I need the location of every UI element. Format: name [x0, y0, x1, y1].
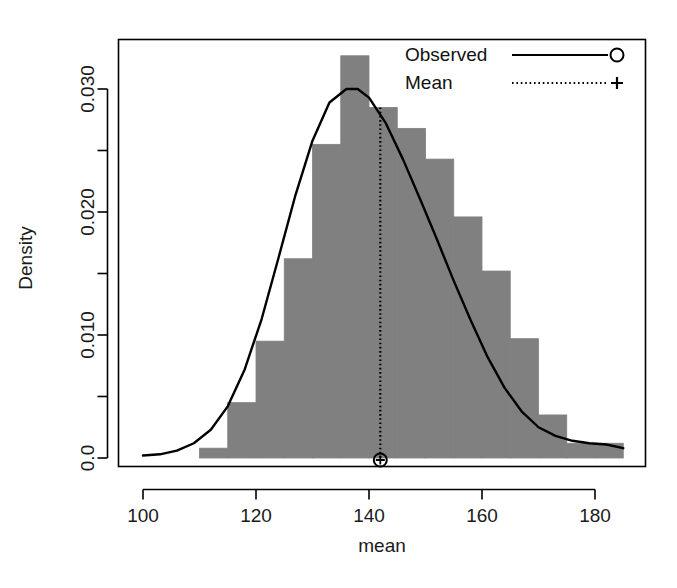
density-histogram-figure: 100120140160180 0.00.0100.0200.030 mean … [0, 0, 677, 588]
x-axis-tick-label: 180 [579, 505, 611, 526]
histogram-bar [567, 443, 595, 458]
histogram-bar [482, 271, 510, 458]
histogram-bar [369, 107, 397, 458]
y-axis-tick-label: 0.0 [77, 445, 98, 471]
x-axis-title: mean [358, 535, 406, 556]
histogram-bar [341, 56, 369, 458]
y-axis-tick-label: 0.010 [77, 311, 98, 359]
plot-canvas: 100120140160180 0.00.0100.0200.030 mean … [0, 0, 677, 588]
y-axis-tick-label: 0.030 [77, 65, 98, 113]
histogram-bar [200, 448, 228, 458]
histogram-bar [256, 341, 284, 458]
histogram-bar [539, 415, 567, 458]
histogram-bar [313, 144, 341, 458]
histogram-bar [228, 403, 256, 458]
histogram-bar [510, 339, 538, 458]
legend-label-mean: Mean [405, 72, 453, 93]
x-axis-tick-label: 140 [353, 505, 385, 526]
histogram-bar [284, 259, 312, 458]
x-axis-tick-label: 120 [240, 505, 272, 526]
x-axis-tick-label: 160 [466, 505, 498, 526]
y-axis-title: Density [15, 226, 36, 290]
x-axis-tick-label: 100 [127, 505, 159, 526]
histogram-bar [426, 159, 454, 458]
y-axis-tick-label: 0.020 [77, 188, 98, 236]
legend-label-observed: Observed [405, 44, 487, 65]
